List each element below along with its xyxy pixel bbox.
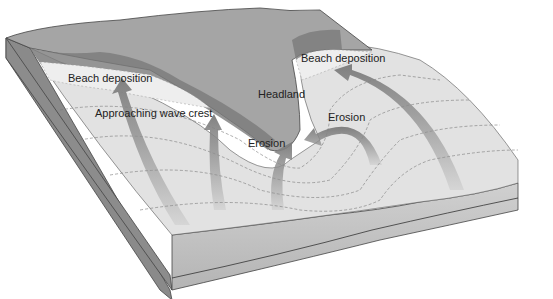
- label-erosion-left: Erosion: [248, 137, 285, 149]
- diagram-canvas: [0, 0, 553, 299]
- label-erosion-right: Erosion: [328, 111, 365, 123]
- label-headland: Headland: [258, 88, 305, 100]
- label-beach-deposition-left: Beach deposition: [68, 72, 152, 84]
- label-beach-deposition-right: Beach deposition: [301, 52, 385, 64]
- label-approaching-wave-crest: Approaching wave crest: [95, 107, 212, 119]
- headland-block-diagram: Beach deposition Beach deposition Headla…: [0, 0, 553, 299]
